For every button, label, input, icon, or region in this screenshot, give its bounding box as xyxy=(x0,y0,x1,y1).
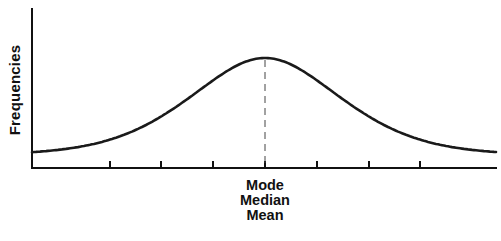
median-label: Median xyxy=(240,193,290,208)
mode-label: Mode xyxy=(240,178,290,193)
central-tendency-labels: Mode Median Mean xyxy=(240,178,290,223)
distribution-curve xyxy=(32,58,496,152)
y-axis-label: Frequencies xyxy=(6,45,23,136)
mean-label: Mean xyxy=(240,208,290,223)
